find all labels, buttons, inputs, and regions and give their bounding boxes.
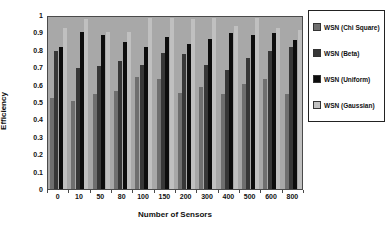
bar-wsn-gaussian-x200 <box>191 19 195 189</box>
y-tick-label: 0.2 <box>3 151 43 159</box>
legend-marker-icon <box>313 23 321 31</box>
bar-wsn-uniform-x600 <box>272 33 276 189</box>
legend-box: WSN (Chi Square)WSN (Beta)WSN (Uniform)W… <box>308 10 385 122</box>
bar-wsn-gaussian-x500 <box>255 18 259 189</box>
bar-wsn-uniform-x300 <box>208 39 212 189</box>
plot-area <box>47 16 303 190</box>
bar-wsn-chi-square-x400 <box>221 94 225 189</box>
bar-wsn-beta-x100 <box>140 65 144 189</box>
bar-wsn-chi-square-x600 <box>263 79 267 189</box>
bar-wsn-beta-x80 <box>118 61 122 189</box>
y-tick-label: 0 <box>3 186 43 194</box>
bar-wsn-gaussian-x10 <box>84 19 88 189</box>
bar-wsn-uniform-x0 <box>59 47 63 189</box>
bar-wsn-beta-x600 <box>268 51 272 189</box>
bar-wsn-beta-x500 <box>246 58 250 189</box>
bar-wsn-gaussian-x300 <box>212 18 216 189</box>
y-tick-label: 0.4 <box>3 116 43 124</box>
bar-wsn-gaussian-x80 <box>127 32 131 189</box>
legend-label: WSN (Gaussian) <box>324 102 375 109</box>
bar-wsn-gaussian-x100 <box>148 18 152 189</box>
legend-marker-icon <box>313 75 321 83</box>
y-tick-label: 0.1 <box>3 169 43 177</box>
bar-wsn-gaussian-x150 <box>170 18 174 189</box>
bar-wsn-chi-square-x800 <box>285 94 289 189</box>
y-tick-label: 0.7 <box>3 64 43 72</box>
y-tick-label: 0.6 <box>3 82 43 90</box>
bar-wsn-beta-x400 <box>225 70 229 189</box>
bar-wsn-beta-x50 <box>97 66 101 189</box>
bar-wsn-gaussian-x400 <box>234 26 238 189</box>
bar-wsn-beta-x800 <box>289 47 293 189</box>
bar-wsn-beta-x300 <box>204 65 208 189</box>
y-tick-label: 1 <box>3 12 43 20</box>
bar-wsn-beta-x0 <box>54 51 58 189</box>
bar-wsn-uniform-x800 <box>293 40 297 189</box>
bar-wsn-uniform-x80 <box>123 42 127 189</box>
bar-wsn-chi-square-x200 <box>178 93 182 189</box>
y-tick-label: 0.8 <box>3 47 43 55</box>
bar-wsn-uniform-x150 <box>165 37 169 189</box>
bar-wsn-uniform-x50 <box>101 35 105 189</box>
legend-label: WSN (Beta) <box>324 50 359 57</box>
legend-marker-icon <box>313 49 321 57</box>
legend-item: WSN (Beta) <box>313 49 382 57</box>
bar-wsn-chi-square-x10 <box>71 101 75 189</box>
bar-wsn-uniform-x200 <box>187 44 191 189</box>
bar-wsn-beta-x150 <box>161 53 165 189</box>
bar-wsn-chi-square-x0 <box>50 98 54 189</box>
y-tick-label: 0.5 <box>3 99 43 107</box>
legend-marker-icon <box>313 101 321 109</box>
bar-wsn-uniform-x100 <box>144 47 148 189</box>
bar-wsn-chi-square-x100 <box>135 77 139 189</box>
bar-wsn-chi-square-x300 <box>199 87 203 189</box>
bar-wsn-chi-square-x500 <box>242 84 246 189</box>
bar-wsn-beta-x10 <box>76 68 80 189</box>
bar-wsn-chi-square-x150 <box>157 79 161 189</box>
bar-wsn-uniform-x10 <box>80 32 84 189</box>
legend-item: WSN (Uniform) <box>313 75 382 83</box>
legend-label: WSN (Chi Square) <box>324 24 380 31</box>
bar-wsn-gaussian-x50 <box>106 32 110 189</box>
x-tick-label: 800 <box>280 193 304 200</box>
legend-item: WSN (Gaussian) <box>313 101 382 109</box>
efficiency-bar-chart: Efficiency 00.10.20.30.40.50.60.70.80.91… <box>0 0 388 233</box>
x-axis-title: Number of Sensors <box>47 210 303 219</box>
bar-wsn-beta-x200 <box>182 54 186 189</box>
bar-wsn-uniform-x500 <box>251 35 255 189</box>
bar-wsn-gaussian-x600 <box>276 28 280 189</box>
y-tick-label: 0.3 <box>3 134 43 142</box>
legend-item: WSN (Chi Square) <box>313 23 382 31</box>
bar-wsn-gaussian-x0 <box>63 28 67 189</box>
bar-wsn-chi-square-x80 <box>114 91 118 189</box>
bar-wsn-gaussian-x800 <box>298 30 302 189</box>
legend-label: WSN (Uniform) <box>324 76 370 83</box>
bar-wsn-chi-square-x50 <box>93 94 97 189</box>
bar-wsn-uniform-x400 <box>229 33 233 189</box>
y-tick-label: 0.9 <box>3 29 43 37</box>
